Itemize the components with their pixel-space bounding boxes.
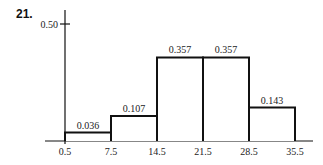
x-tick-label: 14.5: [148, 146, 166, 157]
histogram-bar: [65, 133, 111, 141]
histogram-chart: 0.500.0360.1070.3570.3570.1430.57.514.52…: [0, 0, 323, 165]
histogram-bar: [203, 57, 249, 141]
histogram-bar: [157, 57, 203, 141]
x-tick-label: 21.5: [194, 146, 212, 157]
bar-value-label: 0.357: [215, 44, 238, 55]
y-tick-label: 0.50: [41, 19, 59, 30]
x-tick-label: 28.5: [240, 146, 258, 157]
x-tick-label: 35.5: [286, 146, 304, 157]
histogram-bar: [111, 116, 157, 141]
histogram-bar: [249, 108, 295, 141]
bar-value-label: 0.143: [261, 95, 284, 106]
bar-value-label: 0.107: [123, 103, 146, 114]
bar-value-label: 0.357: [169, 44, 192, 55]
bar-value-label: 0.036: [77, 120, 100, 131]
x-tick-label: 7.5: [105, 146, 118, 157]
x-tick-label: 0.5: [59, 146, 72, 157]
